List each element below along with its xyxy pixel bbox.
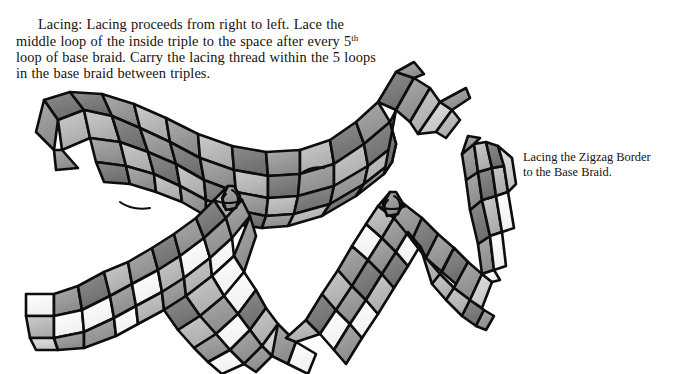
braid-tail-lower-left: [26, 286, 84, 350]
scanned-page: Lacing: Lacing proceeds from right to le…: [0, 0, 691, 374]
caption-line-1: Lacing the Zigzag Border: [523, 150, 673, 165]
ordinal-suffix: th: [351, 33, 358, 43]
braid-tail-upper-right: [378, 62, 470, 174]
braid-illustration: .o { stroke:#0d0d0d; stroke-width:2.6; s…: [0, 58, 520, 374]
braid-tail-right: [462, 136, 516, 282]
figure-caption: Lacing the Zigzag Border to the Base Bra…: [523, 150, 673, 179]
zigzag-left-seg1: [78, 262, 138, 348]
zigzag-border-left: [26, 186, 286, 374]
caption-line-2: to the Base Braid.: [523, 165, 673, 180]
